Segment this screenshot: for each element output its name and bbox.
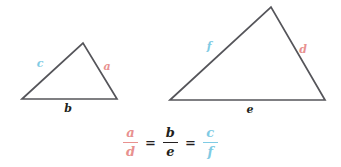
fraction-denominator-d: d — [124, 145, 137, 159]
fraction-denominator-e: e — [164, 145, 176, 159]
equals-sign-2: = — [185, 136, 196, 149]
large-triangle-label-e: e — [247, 103, 254, 116]
fraction-a-over-d: a d — [123, 126, 138, 159]
figure-container: c a b f d e a d = b e = c f — [0, 0, 341, 167]
small-triangle-label-a: a — [103, 60, 110, 73]
small-triangle-label-b: b — [64, 102, 72, 115]
proportion-equation: a d = b e = c f — [123, 126, 218, 159]
fraction-c-over-f: c f — [203, 126, 218, 159]
equation-area: a d = b e = c f — [0, 118, 341, 167]
fraction-bar — [123, 142, 138, 143]
equals-sign-1: = — [145, 136, 156, 149]
fraction-denominator-f: f — [206, 145, 216, 159]
fraction-bar — [163, 142, 178, 143]
fraction-numerator-c: c — [204, 126, 216, 140]
small-triangle-label-c: c — [37, 57, 44, 70]
fraction-numerator-b: b — [164, 126, 177, 140]
fraction-bar — [203, 142, 218, 143]
large-triangle-label-f: f — [206, 40, 214, 53]
fraction-numerator-a: a — [124, 126, 137, 140]
fraction-b-over-e: b e — [163, 126, 178, 159]
large-triangle-label-d: d — [299, 43, 307, 56]
